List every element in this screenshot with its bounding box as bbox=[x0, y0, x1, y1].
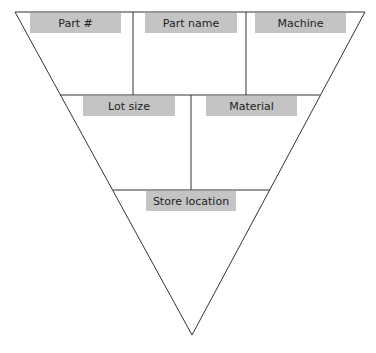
inverted-triangle-frame bbox=[0, 0, 376, 353]
material-label: Material bbox=[206, 96, 297, 116]
part-name-label: Part name bbox=[145, 13, 237, 33]
store-location-label: Store location bbox=[146, 191, 236, 211]
part-number-label: Part # bbox=[30, 13, 121, 33]
triangle-outline bbox=[15, 12, 365, 335]
machine-label: Machine bbox=[255, 13, 346, 33]
lot-size-label: Lot size bbox=[83, 96, 175, 116]
